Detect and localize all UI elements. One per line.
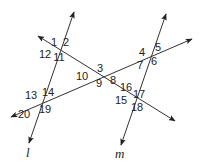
angle-label-12: 12 <box>39 48 51 60</box>
angle-label-15: 15 <box>115 94 127 106</box>
angle-label-19: 19 <box>39 103 51 115</box>
angle-label-11: 11 <box>53 51 64 63</box>
angle-label-14: 14 <box>42 86 54 98</box>
diagram-canvas: 1234567891011121314151617181920 lm <box>0 0 201 163</box>
angle-label-17: 17 <box>133 88 145 100</box>
angle-label-20: 20 <box>18 108 30 120</box>
line-label-l: l <box>26 145 30 160</box>
angle-label-8: 8 <box>110 74 116 86</box>
angle-diagram: 1234567891011121314151617181920 lm <box>0 0 201 163</box>
angle-label-4: 4 <box>139 46 145 58</box>
line-names-layer: lm <box>26 145 124 161</box>
angle-label-7: 7 <box>137 59 143 71</box>
angle-label-5: 5 <box>155 41 161 53</box>
angle-label-16: 16 <box>120 81 132 93</box>
angle-label-3: 3 <box>97 62 103 74</box>
angle-label-1: 1 <box>51 36 57 48</box>
line-label-m: m <box>115 146 124 161</box>
line-l <box>29 12 74 143</box>
angle-label-6: 6 <box>151 55 157 67</box>
angle-labels-layer: 1234567891011121314151617181920 <box>18 36 161 120</box>
line-m <box>121 14 166 145</box>
angle-label-18: 18 <box>131 101 143 113</box>
angle-label-9: 9 <box>96 77 102 89</box>
angle-label-13: 13 <box>25 89 37 101</box>
angle-label-10: 10 <box>76 70 88 82</box>
angle-label-2: 2 <box>63 36 69 48</box>
